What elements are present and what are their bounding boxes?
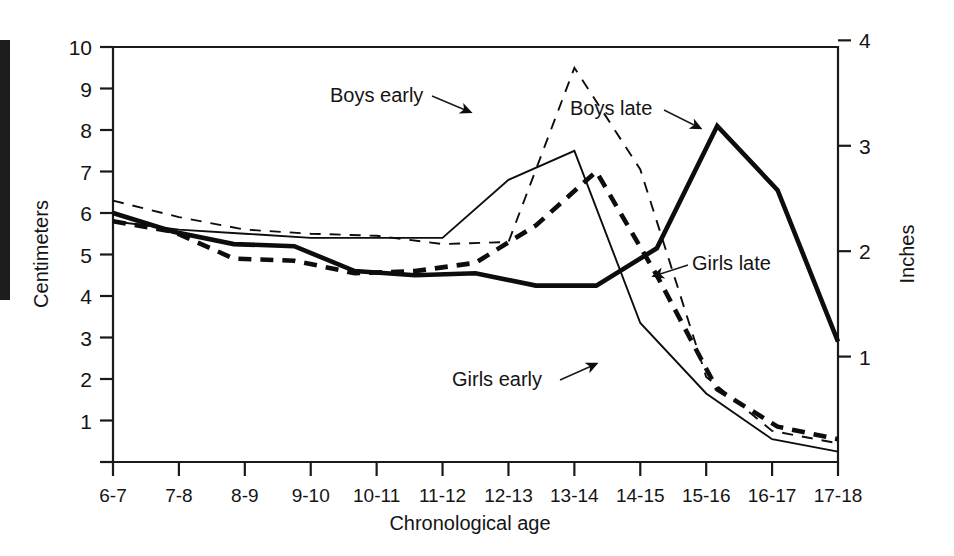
annotation-label-boys-early: Boys early [330,84,423,106]
y-tick-label-left: 9 [80,78,92,101]
y-tick-label-right: 2 [859,240,871,263]
x-tick-label: 7-8 [165,485,192,506]
series-line-girls-early [113,151,838,452]
annotation-label-girls-early: Girls early [452,368,542,390]
y-tick-label-left: 3 [80,327,92,350]
x-tick-label: 17-18 [814,485,863,506]
annotation-leader-boys-early [432,96,470,112]
x-tick-label: 14-15 [616,485,665,506]
x-tick-label: 16-17 [748,485,797,506]
y-axis-right-ticks: 4321 [838,29,871,368]
y-tick-label-right: 3 [859,135,871,158]
y-tick-label-left: 7 [80,161,92,184]
x-tick-label: 12-13 [484,485,533,506]
annotation-leader-boys-late [664,110,700,128]
x-tick-label: 15-16 [682,485,731,506]
y-tick-label-left: 2 [80,368,92,391]
figure-root: 10987654321 4321 6-77-88-99-1010-1111-12… [0,0,954,556]
y-tick-label-right: 1 [859,346,871,369]
y-tick-label-left: 1 [80,410,92,433]
y-tick-label-left: 8 [80,119,92,142]
y-axis-left-title: Centimeters [30,200,52,308]
series-line-girls-late [113,172,838,440]
series-line-boys-late [113,126,838,342]
annotation-label-boys-late: Boys late [570,97,652,119]
y-tick-label-left: 10 [69,36,92,59]
y-tick-label-right: 4 [859,29,871,52]
y-tick-label-left: 5 [80,244,92,267]
growth-velocity-chart: 10987654321 4321 6-77-88-99-1010-1111-12… [0,0,954,556]
x-tick-label: 11-12 [419,485,466,506]
annotation-label-girls-late: Girls late [692,252,771,274]
y-tick-label-left: 6 [80,202,92,225]
x-tick-label: 8-9 [231,485,258,506]
x-axis-ticks: 6-77-88-99-1010-1111-1212-1313-1414-1515… [99,462,862,506]
x-axis-title: Chronological age [389,512,550,534]
x-tick-label: 13-14 [550,485,599,506]
annotation-leader-girls-early [560,364,596,380]
y-axis-right-title: Inches [896,225,918,284]
x-tick-label: 9-10 [292,485,330,506]
y-axis-left-ticks: 10987654321 [69,36,113,462]
x-tick-label: 6-7 [99,485,126,506]
y-tick-label-left: 4 [80,285,92,308]
x-tick-label: 10-11 [353,485,400,506]
